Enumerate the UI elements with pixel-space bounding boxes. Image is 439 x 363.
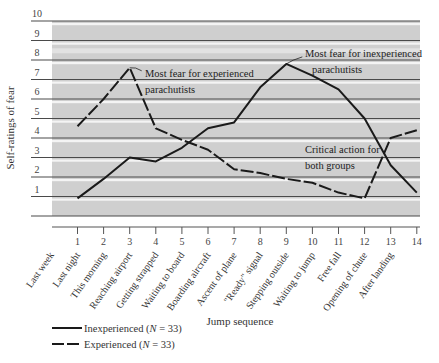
x-tick-label: 10 xyxy=(307,236,317,247)
annotation-experienced-2: parachutists xyxy=(145,84,195,95)
x-tick-label: 11 xyxy=(334,236,344,247)
annotation-inexperienced: Most fear for inexperienced xyxy=(305,48,423,59)
annotation-inexperienced-2: parachutists xyxy=(312,64,362,75)
y-tick-label: 4 xyxy=(35,125,40,136)
y-tick-label: 5 xyxy=(35,106,40,117)
x-tick-label: 7 xyxy=(232,236,237,247)
annotation-experienced: Most fear for experienced xyxy=(145,68,254,79)
fear-ratings-chart: 12345678910 Self-ratings of fear 1234567… xyxy=(0,0,439,363)
legend-label: Inexperienced (N = 33) xyxy=(84,323,182,335)
y-axis-ticks: 12345678910 xyxy=(32,8,42,195)
x-tick-label: 5 xyxy=(179,236,184,247)
x-tick-label: 13 xyxy=(386,236,396,247)
x-tick-label: 3 xyxy=(127,236,132,247)
x-tick-label: 14 xyxy=(412,236,422,247)
x-tick-label: 4 xyxy=(153,236,158,247)
y-tick-label: 1 xyxy=(35,184,40,195)
x-tick-label: 6 xyxy=(206,236,211,247)
x-tick-label: 1 xyxy=(75,236,80,247)
y-tick-label: 10 xyxy=(32,8,42,19)
y-tick-label: 2 xyxy=(35,164,40,175)
y-tick-label: 6 xyxy=(35,86,40,97)
y-tick-label: 7 xyxy=(35,67,40,78)
x-axis: 1234567891011121314 xyxy=(52,227,422,247)
x-tick-label: 9 xyxy=(284,236,289,247)
x-tick-label: 2 xyxy=(101,236,106,247)
annotation-critical-2: both groups xyxy=(305,160,355,171)
x-category-labels: Last weekLast nightThis morningReaching … xyxy=(24,249,396,313)
y-tick-label: 3 xyxy=(35,145,40,156)
x-tick-label: 12 xyxy=(360,236,370,247)
y-axis-label: Self-ratings of fear xyxy=(4,86,16,169)
legend: Inexperienced (N = 33)Experienced (N = 3… xyxy=(52,323,182,351)
x-axis-label: Jump sequence xyxy=(207,315,274,327)
y-tick-label: 8 xyxy=(35,47,40,58)
legend-label: Experienced (N = 33) xyxy=(84,339,175,351)
annotation-critical: Critical action for xyxy=(305,144,380,155)
y-tick-label: 9 xyxy=(35,28,40,39)
x-tick-label: 8 xyxy=(258,236,263,247)
